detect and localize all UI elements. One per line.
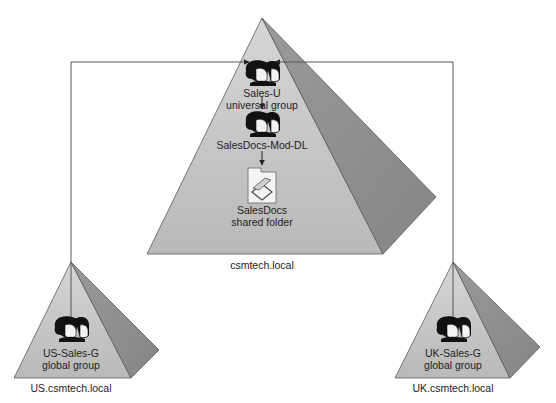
- uk-sales-g-name: UK-Sales-G: [425, 347, 481, 359]
- shared-folder-icon: [248, 168, 276, 203]
- us-sales-g-scope: global group: [42, 359, 100, 371]
- diagram-canvas: Sales-U universal group SalesDocs-Mod-DL…: [0, 0, 556, 403]
- domain-label-uk: UK.csmtech.local: [412, 382, 493, 394]
- uk-sales-g-scope: global group: [424, 359, 482, 371]
- domain-label-us: US.csmtech.local: [30, 382, 111, 394]
- salesdocs-mod-dl-name: SalesDocs-Mod-DL: [216, 139, 307, 151]
- sales-u-name: Sales-U: [243, 87, 280, 99]
- domain-label-root: csmtech.local: [230, 259, 294, 271]
- us-sales-g-name: US-Sales-G: [43, 347, 99, 359]
- salesdocs-scope: shared folder: [231, 216, 293, 228]
- salesdocs-name: SalesDocs: [237, 204, 287, 216]
- sales-u-scope: universal group: [226, 99, 298, 111]
